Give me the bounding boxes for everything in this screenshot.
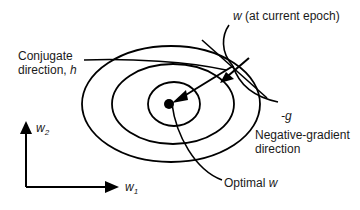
axis-x-arrow-icon — [105, 181, 119, 193]
label-axis-x: w1 — [125, 180, 138, 196]
label-neg-g: -g — [281, 109, 292, 123]
contour-diagram — [0, 0, 360, 210]
label-conjugate-direction: Conjugate direction, h — [18, 49, 77, 77]
axis-y-arrow-icon — [20, 121, 32, 134]
arrowhead-optimal-icon — [172, 90, 188, 103]
label-current-w: w (at current epoch) — [233, 9, 340, 23]
label-axis-y: w2 — [36, 121, 49, 137]
label-negative-gradient: Negative-gradient direction — [255, 128, 350, 156]
label-optimal-w: Optimal w — [224, 176, 277, 190]
